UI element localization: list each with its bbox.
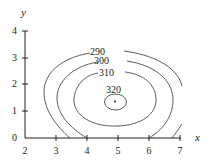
x-tick-3: 3	[54, 145, 59, 156]
x-axis-label: x	[194, 131, 200, 143]
y-tick-0: 0	[12, 132, 17, 143]
x-tick-5: 5	[116, 145, 121, 156]
y-tick-3: 3	[12, 52, 17, 63]
contour-310	[74, 72, 156, 126]
y-tick-labels: 0 1 2 3 4	[12, 25, 17, 143]
contour-labels: 290 300 310 320	[90, 46, 121, 95]
contour-chart: 290 300 310 320 2 3 4 5 6 7 0 1 2 3 4 x …	[0, 0, 217, 166]
maximum-point	[114, 101, 116, 103]
x-tick-7: 7	[178, 145, 183, 156]
x-tick-6: 6	[147, 145, 152, 156]
x-tick-4: 4	[85, 145, 90, 156]
x-tick-2: 2	[23, 145, 28, 156]
contour-label-310: 310	[99, 67, 114, 78]
y-tick-2: 2	[12, 78, 17, 89]
y-tick-4: 4	[12, 25, 17, 36]
contour-label-300: 300	[94, 55, 109, 66]
y-axis-label: y	[20, 6, 26, 18]
x-tick-labels: 2 3 4 5 6 7	[23, 145, 183, 156]
y-tick-1: 1	[12, 105, 17, 116]
contour-label-320: 320	[106, 84, 121, 95]
